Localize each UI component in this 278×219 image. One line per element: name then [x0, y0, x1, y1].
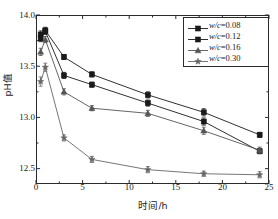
series-3	[37, 63, 262, 178]
chart-legend: w/c=0.08w/c=0.12w/c=0.16w/c=0.30	[183, 17, 269, 67]
data-point-square	[145, 101, 150, 106]
data-point-star	[195, 58, 201, 64]
legend-label: w/c=0.30	[209, 53, 240, 64]
data-point-square	[145, 92, 150, 97]
data-point-square	[89, 82, 94, 87]
series-line	[41, 67, 260, 175]
data-point-square	[43, 29, 48, 34]
data-point-triangle	[38, 49, 44, 54]
legend-item: w/c=0.16	[187, 42, 265, 53]
data-point-square	[89, 72, 94, 77]
legend-label: w/c=0.12	[209, 31, 240, 42]
legend-marker-square-icon	[187, 20, 209, 31]
data-point-square	[61, 73, 66, 78]
data-point-triangle	[89, 105, 95, 110]
data-point-square	[201, 119, 206, 124]
data-point-square	[61, 54, 66, 59]
data-point-square	[201, 110, 206, 115]
data-point-triangle	[61, 89, 67, 94]
legend-item: w/c=0.12	[187, 31, 265, 42]
legend-marker-square-icon	[187, 31, 209, 42]
data-point-square	[257, 132, 262, 137]
data-point-square	[38, 36, 43, 41]
legend-marker-star-icon	[187, 53, 209, 64]
chart-figure: pH值 时间/h 12.513.013.514.0 0510152025 w/c…	[0, 0, 278, 219]
legend-item: w/c=0.30	[187, 53, 265, 64]
legend-label: w/c=0.08	[209, 20, 240, 31]
legend-label: w/c=0.16	[209, 42, 240, 53]
legend-item: w/c=0.08	[187, 20, 265, 31]
legend-marker-triangle-icon	[187, 42, 209, 53]
